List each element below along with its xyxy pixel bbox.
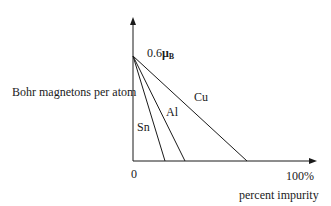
series-line-cu	[133, 56, 247, 161]
y-axis-arrow-icon	[130, 17, 136, 25]
series-label-sn: Sn	[137, 121, 150, 133]
mu-symbol: μ	[162, 46, 169, 60]
series-label-cu: Cu	[194, 91, 208, 103]
x-axis-label: percent impurity	[239, 189, 319, 201]
x-axis-arrow-icon	[309, 158, 317, 164]
y-axis-value-label: 0.6μB	[147, 47, 174, 61]
x-axis-origin-label: 0	[131, 168, 137, 180]
series-line-sn	[133, 56, 165, 161]
mu-subscript: B	[169, 52, 174, 61]
x-axis-max-label: 100%	[286, 170, 314, 182]
chart-plot	[0, 0, 331, 206]
series-label-al: Al	[166, 106, 178, 118]
y-axis-label: Bohr magnetons per atom	[12, 86, 136, 98]
y-value-number: 0.6	[147, 46, 162, 60]
